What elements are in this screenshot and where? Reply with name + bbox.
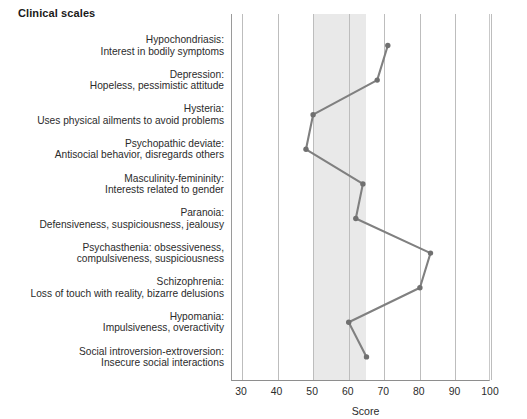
scale-name: Hysteria: xyxy=(0,103,224,114)
scale-description: Uses physical ailments to avoid problems xyxy=(0,115,224,126)
scale-description: Loss of touch with reality, bizarre delu… xyxy=(0,288,224,299)
x-axis-title: Score xyxy=(326,405,406,417)
x-tick-label: 60 xyxy=(333,386,363,397)
plot-area xyxy=(231,14,490,381)
scale-label: Depression:Hopeless, pessimistic attitud… xyxy=(0,69,224,92)
data-point xyxy=(303,147,308,152)
scale-label: Psychopathic deviate:Antisocial behavior… xyxy=(0,138,224,161)
x-tick-label: 40 xyxy=(262,386,292,397)
scale-description: Antisocial behavior, disregards others xyxy=(0,149,224,160)
scale-label: Hypochondriasis:Interest in bodily sympt… xyxy=(0,34,224,57)
x-tick-label: 70 xyxy=(368,386,398,397)
x-tick-label: 80 xyxy=(404,386,434,397)
scale-label: Psychasthenia: obsessiveness,compulsiven… xyxy=(0,242,224,265)
scale-label: Paranoia:Defensiveness, suspiciousness, … xyxy=(0,207,224,230)
scale-description: Impulsiveness, overactivity xyxy=(0,322,224,333)
scale-name: Hypomania: xyxy=(0,311,224,322)
x-tick-label: 50 xyxy=(297,386,327,397)
gridline xyxy=(491,14,492,380)
x-tick-label: 30 xyxy=(226,386,256,397)
scale-description: Defensiveness, suspiciousness, jealousy xyxy=(0,219,224,230)
scale-name: Psychasthenia: obsessiveness, xyxy=(0,242,224,253)
scale-label: Schizophrenia:Loss of touch with reality… xyxy=(0,276,224,299)
scale-name: Social introversion-extroversion: xyxy=(0,346,224,357)
scale-label: Masculinity-femininity:Interests related… xyxy=(0,173,224,196)
scale-description: compulsiveness, suspiciousness xyxy=(0,253,224,264)
scale-name: Masculinity-femininity: xyxy=(0,173,224,184)
chart-page: Clinical scales Hypochondriasis:Interest… xyxy=(0,0,527,419)
data-point xyxy=(385,43,390,48)
scale-description: Interests related to gender xyxy=(0,184,224,195)
scale-label-column: Hypochondriasis:Interest in bodily sympt… xyxy=(0,29,228,369)
page-title: Clinical scales xyxy=(18,7,95,19)
x-tick-label: 100 xyxy=(475,386,505,397)
scale-description: Interest in bodily symptoms xyxy=(0,46,224,57)
data-point xyxy=(364,354,369,359)
x-tick-label: 90 xyxy=(439,386,469,397)
data-point xyxy=(417,285,422,290)
data-point xyxy=(360,181,365,186)
data-point xyxy=(375,77,380,82)
data-series-svg xyxy=(232,14,491,381)
scale-name: Paranoia: xyxy=(0,207,224,218)
scale-name: Hypochondriasis: xyxy=(0,34,224,45)
profile-line xyxy=(306,46,431,357)
data-point xyxy=(346,320,351,325)
data-point xyxy=(428,250,433,255)
data-point xyxy=(353,216,358,221)
scale-label: Social introversion-extroversion:Insecur… xyxy=(0,346,224,369)
scale-label: Hypomania:Impulsiveness, overactivity xyxy=(0,311,224,334)
scale-name: Psychopathic deviate: xyxy=(0,138,224,149)
scale-description: Insecure social interactions xyxy=(0,357,224,368)
scale-name: Schizophrenia: xyxy=(0,276,224,287)
scale-label: Hysteria:Uses physical ailments to avoid… xyxy=(0,103,224,126)
data-point xyxy=(310,112,315,117)
scale-name: Depression: xyxy=(0,69,224,80)
scale-description: Hopeless, pessimistic attitude xyxy=(0,80,224,91)
